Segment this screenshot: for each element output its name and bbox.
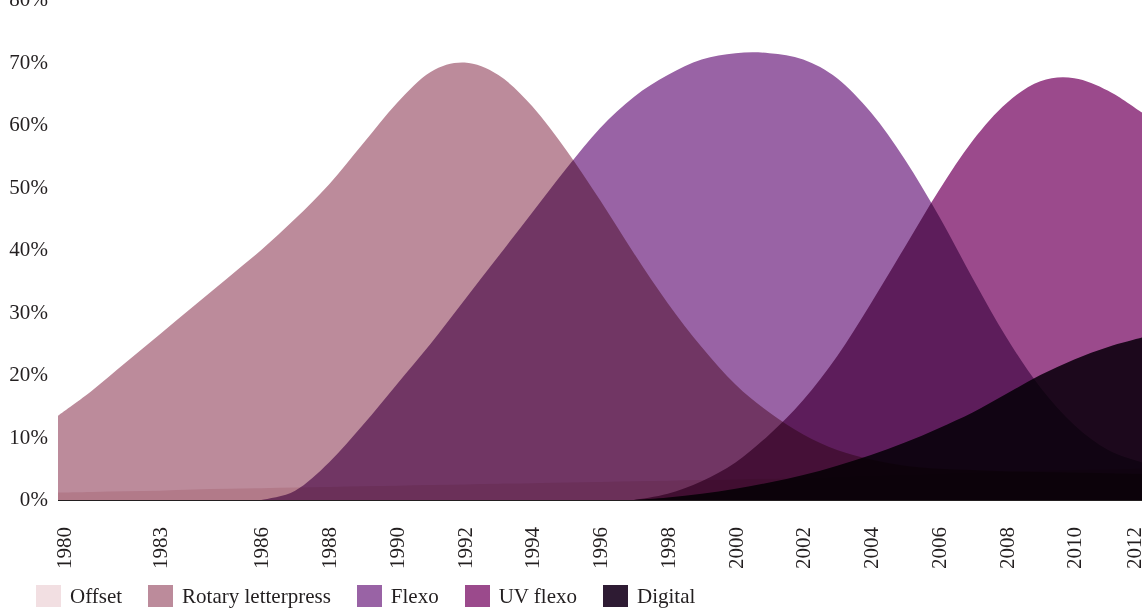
y-axis-tick-label: 10% <box>9 427 48 448</box>
x-axis-tick-label: 2006 <box>926 514 952 582</box>
x-axis-tick-label: 1994 <box>519 514 545 582</box>
legend-swatch-icon <box>36 585 61 607</box>
y-axis-tick-label: 60% <box>9 114 48 135</box>
x-axis-tick-label: 2004 <box>858 514 884 582</box>
x-axis-tick-label: 1990 <box>384 514 410 582</box>
y-axis-tick-label: 20% <box>9 364 48 385</box>
y-axis-tick-label: 50% <box>9 177 48 198</box>
legend-swatch-icon <box>357 585 382 607</box>
y-axis-tick-label: 40% <box>9 239 48 260</box>
x-axis-tick-label: 2000 <box>723 514 749 582</box>
y-axis-tick-label: 80% <box>9 0 48 10</box>
plot-area <box>58 0 1142 500</box>
x-axis-tick-label: 2002 <box>790 514 816 582</box>
x-axis-tick-label: 1998 <box>655 514 681 582</box>
plot-wrapper: 80%70%60%50%40%30%20%10%0% 1980198319861… <box>0 0 1142 570</box>
x-axis-tick-label: 2008 <box>994 514 1020 582</box>
legend-item-label: Flexo <box>391 585 439 607</box>
x-axis-tick-label: 2012 <box>1121 514 1142 582</box>
legend-swatch-icon <box>465 585 490 607</box>
legend-item-label: Offset <box>70 585 122 607</box>
legend-item[interactable]: Rotary letterpress <box>148 585 331 607</box>
series-group <box>58 52 1142 500</box>
legend-item-label: Digital <box>637 585 695 607</box>
y-axis-tick-label: 0% <box>20 489 48 510</box>
chart-legend: OffsetRotary letterpressFlexoUV flexoDig… <box>36 583 721 609</box>
legend-item-label: UV flexo <box>499 585 577 607</box>
legend-swatch-icon <box>148 585 173 607</box>
x-axis: 1980198319861988199019921994199619982000… <box>58 501 1142 569</box>
legend-item[interactable]: UV flexo <box>465 585 577 607</box>
legend-item[interactable]: Flexo <box>357 585 439 607</box>
legend-item-label: Rotary letterpress <box>182 585 331 607</box>
x-axis-tick-label: 1992 <box>452 514 478 582</box>
x-axis-tick-label: 1986 <box>248 514 274 582</box>
legend-item[interactable]: Digital <box>603 585 695 607</box>
area-chart: 80%70%60%50%40%30%20%10%0% 1980198319861… <box>0 0 1142 613</box>
x-axis-tick-label: 1988 <box>316 514 342 582</box>
y-axis-tick-label: 70% <box>9 52 48 73</box>
x-axis-tick-label: 2010 <box>1061 514 1087 582</box>
legend-item[interactable]: Offset <box>36 585 122 607</box>
area-series-canvas <box>58 0 1142 500</box>
y-axis: 80%70%60%50%40%30%20%10%0% <box>0 0 58 500</box>
x-axis-tick-label: 1996 <box>587 514 613 582</box>
x-axis-tick-label: 1983 <box>147 514 173 582</box>
y-axis-tick-label: 30% <box>9 302 48 323</box>
legend-swatch-icon <box>603 585 628 607</box>
x-axis-tick-label: 1980 <box>51 514 77 582</box>
